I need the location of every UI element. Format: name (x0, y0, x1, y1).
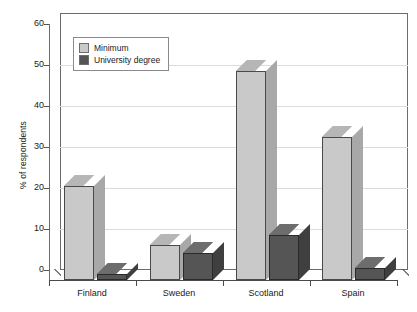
x-tick-3 (310, 280, 311, 286)
bar-sweden-minimum (150, 245, 180, 280)
y-tick-label-20: 20 (22, 182, 44, 192)
bar-scotland-university (269, 235, 299, 280)
y-tick-mark-40 (44, 106, 49, 107)
y-axis-line (49, 24, 50, 281)
bar-spain-university (355, 268, 385, 280)
x-tick-0 (49, 280, 50, 286)
bar-side (352, 126, 363, 280)
y-tick-label-30: 30 (22, 141, 44, 151)
x-tick-2 (223, 280, 224, 286)
legend-item-university-degree: University degree (79, 54, 160, 66)
legend-swatch-minimum (79, 43, 89, 53)
y-tick-mark-50 (44, 65, 49, 66)
x-category-label-scotland: Scotland (221, 288, 311, 298)
bar-side (94, 175, 105, 280)
bar-face (236, 71, 266, 280)
bar-face (150, 245, 180, 280)
x-category-label-sweden: Sweden (134, 288, 224, 298)
bar-face (64, 186, 94, 280)
bar-chart: % of respondents 60 50 40 30 20 10 0 (0, 0, 417, 312)
y-tick-label-60: 60 (22, 18, 44, 28)
gridline-40 (60, 106, 408, 107)
y-tick-mark-10 (44, 229, 49, 230)
chart-page: % of respondents 60 50 40 30 20 10 0 (0, 0, 417, 312)
bar-finland-minimum (64, 186, 94, 280)
bar-spain-minimum (322, 137, 352, 280)
y-tick-mark-60 (44, 24, 49, 25)
legend-item-minimum: Minimum (79, 42, 160, 54)
bar-face (322, 137, 352, 280)
bar-sweden-university (183, 253, 213, 280)
legend-swatch-university-degree (79, 55, 89, 65)
y-tick-mark-30 (44, 147, 49, 148)
x-category-label-spain: Spain (308, 288, 398, 298)
x-tick-4 (397, 280, 398, 286)
bar-finland-university (97, 274, 127, 280)
y-tick-label-40: 40 (22, 100, 44, 110)
y-tick-label-10: 10 (22, 223, 44, 233)
legend-label-minimum: Minimum (94, 43, 128, 53)
bar-face (97, 274, 127, 280)
bar-face (355, 268, 385, 280)
y-tick-label-0: 0 (22, 264, 44, 274)
bar-face (183, 253, 213, 280)
x-category-label-finland: Finland (47, 288, 137, 298)
x-tick-1 (136, 280, 137, 286)
bar-face (269, 235, 299, 280)
bar-scotland-minimum (236, 71, 266, 280)
y-tick-mark-20 (44, 188, 49, 189)
y-tick-label-50: 50 (22, 59, 44, 69)
legend-label-university-degree: University degree (94, 55, 160, 65)
chart-legend: Minimum University degree (73, 37, 169, 71)
